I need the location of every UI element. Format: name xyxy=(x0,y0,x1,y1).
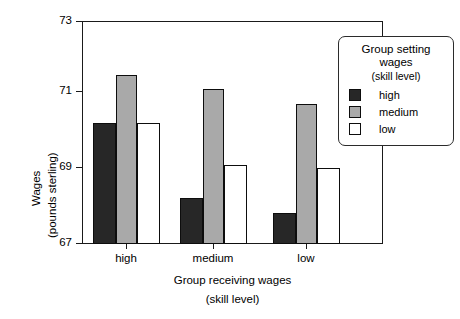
y-tick-label-67: 67 xyxy=(59,237,72,249)
y-axis-line xyxy=(82,21,83,244)
y-axis-title-main: Wages xyxy=(30,171,42,206)
legend-swatch-high-icon xyxy=(349,89,361,101)
y-tick-mark-71 xyxy=(76,91,82,92)
legend-item-low[interactable]: low xyxy=(349,121,453,137)
y-tick-label-73: 73 xyxy=(59,15,72,27)
legend-label-medium: medium xyxy=(379,106,418,118)
legend-title-line1: Group setting xyxy=(339,43,453,56)
bar-chart-figure: 67 69 71 73 Wages (pounds sterling) high… xyxy=(0,0,460,319)
legend-subtitle: (skill level) xyxy=(339,70,453,83)
y-axis-title: Wages (pounds sterling) xyxy=(14,88,74,208)
legend-swatch-low-icon xyxy=(349,123,361,135)
chart-legend: Group setting wages (skill level) high m… xyxy=(338,36,454,146)
x-axis-title-sub: (skill level) xyxy=(82,293,383,306)
y-tick-mark-69 xyxy=(76,167,82,168)
bar-high-medium[interactable] xyxy=(116,75,137,244)
legend-title-line2: wages xyxy=(339,56,453,69)
x-axis-title-main: Group receiving wages xyxy=(82,274,383,287)
bar-high-low[interactable] xyxy=(137,123,160,244)
x-tick-mark-medium xyxy=(213,244,214,249)
y-tick-mark-67 xyxy=(76,243,82,244)
bar-medium-high[interactable] xyxy=(180,198,203,244)
legend-entry-list: high medium low xyxy=(339,87,453,137)
bar-low-medium[interactable] xyxy=(296,104,317,244)
legend-label-low: low xyxy=(379,123,396,135)
x-tick-label-high: high xyxy=(96,252,156,264)
bar-high-high[interactable] xyxy=(93,123,116,244)
bar-low-low[interactable] xyxy=(317,168,340,244)
bar-medium-low[interactable] xyxy=(224,165,247,244)
x-tick-label-low: low xyxy=(276,252,336,264)
legend-swatch-medium-icon xyxy=(349,106,361,118)
legend-item-high[interactable]: high xyxy=(349,87,453,103)
x-tick-label-medium: medium xyxy=(183,252,243,264)
bar-low-high[interactable] xyxy=(273,213,296,244)
x-tick-mark-high xyxy=(126,244,127,249)
x-tick-mark-low xyxy=(306,244,307,249)
bar-medium-medium[interactable] xyxy=(203,89,224,244)
plot-top-frame xyxy=(82,21,383,22)
legend-label-high: high xyxy=(379,89,400,101)
legend-item-medium[interactable]: medium xyxy=(349,104,453,120)
y-axis-title-sub: (pounds sterling) xyxy=(46,152,58,238)
y-tick-mark-73 xyxy=(76,21,82,22)
